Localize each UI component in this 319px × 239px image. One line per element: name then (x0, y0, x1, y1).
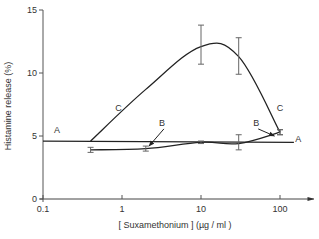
x-tick-label: 1 (119, 204, 124, 214)
curve-label-B: B (253, 118, 259, 128)
x-tick-label: 100 (272, 204, 287, 214)
y-tick-label: 15 (27, 5, 37, 15)
series-A-line (43, 141, 294, 142)
x-tick-label: 0.1 (37, 204, 50, 214)
x-tick-label: 10 (196, 204, 206, 214)
chart-container: 0510150.1110100[ Suxamethonium ] (µg / m… (0, 0, 319, 239)
annotation-arrow (149, 129, 164, 146)
y-tick-label: 10 (27, 68, 37, 78)
y-tick-label: 5 (32, 131, 37, 141)
curve-label-A: A (295, 134, 301, 144)
y-axis-label: Histamine release (%) (3, 62, 13, 151)
curve-label-C: C (115, 103, 122, 113)
series-C-line (91, 43, 280, 141)
curve-label-B: B (159, 118, 165, 128)
y-tick-label: 0 (32, 194, 37, 204)
x-axis-label: [ Suxamethonium ] (µg / ml ) (118, 220, 231, 230)
curve-label-C: C (277, 103, 284, 113)
curve-label-A: A (54, 125, 60, 135)
line-chart: 0510150.1110100[ Suxamethonium ] (µg / m… (0, 0, 319, 239)
annotation-arrow (258, 129, 274, 136)
